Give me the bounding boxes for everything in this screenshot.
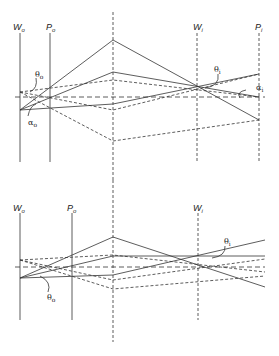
label-Wo: Wo <box>13 203 26 214</box>
label-alpha-i: αi <box>256 83 263 93</box>
top-panel <box>15 12 265 180</box>
ray-dashed <box>20 92 259 141</box>
theta-o-leader <box>40 276 49 292</box>
label-theta-o: θo <box>35 70 44 80</box>
optical-diagram: Wo Po Wi Pi θo αo θi αi Wo Po Wi θo θi <box>0 0 279 356</box>
label-Wi: Wi <box>193 203 204 214</box>
label-Wi: Wi <box>193 22 204 33</box>
label-theta-i: θi <box>224 237 231 247</box>
label-theta-o: θo <box>47 293 56 303</box>
label-Po: Po <box>67 203 77 214</box>
label-Po: Po <box>46 22 56 33</box>
top-labels: Wo Po Wi Pi θo αo θi αi <box>13 22 263 128</box>
bottom-panel <box>15 180 265 342</box>
label-alpha-o: αo <box>28 118 37 128</box>
label-Wo: Wo <box>13 22 26 33</box>
label-Pi: Pi <box>255 22 263 33</box>
alpha-o-leader <box>28 104 36 116</box>
ray <box>20 74 259 110</box>
ray-dashed <box>20 74 259 110</box>
ray <box>20 72 259 110</box>
label-theta-i: θi <box>214 65 221 75</box>
theta-i-leader <box>205 74 218 88</box>
